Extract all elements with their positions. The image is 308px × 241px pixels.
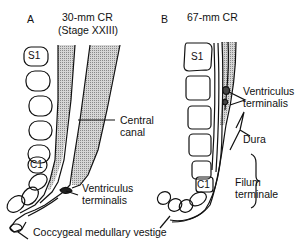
label-ventriculus-b-line2: terminalis <box>243 97 288 109</box>
panel-b-title: 67-mm CR <box>187 11 238 23</box>
vertebra-a <box>4 192 28 216</box>
panel-a-letter: A <box>27 13 34 25</box>
vertebra-b <box>155 189 173 207</box>
label-central-canal-line2: canal <box>120 126 145 138</box>
label-dura: Dura <box>243 133 266 145</box>
label-filum-line1: Filum <box>235 176 261 188</box>
label-filum-line2: terminale <box>235 188 278 200</box>
vertebra-b <box>188 106 211 129</box>
label-ventriculus-b-line1: Ventriculus <box>243 85 294 97</box>
label-coccygeal-vestige: Coccygeal medullary vestige <box>33 226 167 238</box>
vertebra-b <box>189 134 211 156</box>
vertebra-label-c1-a: C1 <box>30 159 43 171</box>
vertebra-label-c1-b: C1 <box>197 179 210 191</box>
vertebra-label-s1-b: S1 <box>191 51 203 63</box>
label-ventriculus-a-line2: terminalis <box>82 194 127 206</box>
vertebra-a <box>29 121 52 140</box>
panel-a-title: 30-mm CR <box>62 11 113 23</box>
diagram-canvas <box>0 0 308 241</box>
vertebra-b <box>192 161 211 179</box>
label-ventriculus-a-line1: Ventriculus <box>82 182 133 194</box>
vertebra-a <box>29 96 52 116</box>
vertebra-a <box>26 71 50 91</box>
panel-b-letter: B <box>161 13 168 25</box>
panel-a-subtitle: (Stage XXIII) <box>58 24 118 36</box>
vertebra-label-s1-a: S1 <box>28 50 40 62</box>
panel-a-drawing <box>4 45 120 239</box>
label-central-canal-line1: Central <box>120 114 154 126</box>
vertebra-b <box>186 76 210 100</box>
